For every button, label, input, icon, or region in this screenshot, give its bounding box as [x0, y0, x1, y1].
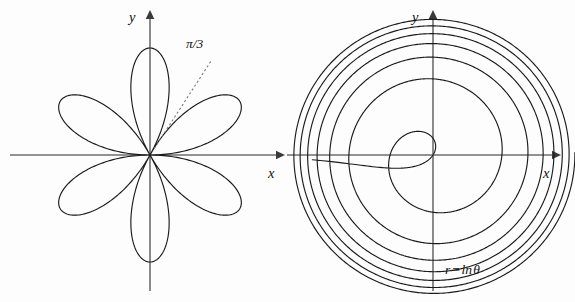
right-x-axis-label: x: [542, 165, 550, 181]
left-y-axis-arrowhead: [146, 10, 155, 19]
polar-figure: x y π/3 x y r = ln θ: [0, 0, 575, 302]
right-y-axis-label: y: [410, 9, 419, 25]
left-x-axis-arrowhead: [276, 151, 285, 160]
log-spiral-panel: x y r = ln θ: [287, 9, 575, 293]
angle-annotation-label: π/3: [186, 36, 204, 51]
right-y-axis-arrowhead: [429, 10, 438, 19]
log-spiral-curve-path: [294, 19, 575, 293]
figure-canvas: x y π/3 x y r = ln θ: [0, 0, 575, 302]
spiral-equation-label: r = ln θ: [445, 262, 480, 277]
left-y-axis-label: y: [127, 9, 136, 25]
angle-ray-dotted-line: [154, 61, 211, 148]
rose-curve-panel: x y π/3: [10, 9, 285, 291]
left-x-axis-label: x: [267, 165, 275, 181]
right-axes: [287, 10, 561, 291]
